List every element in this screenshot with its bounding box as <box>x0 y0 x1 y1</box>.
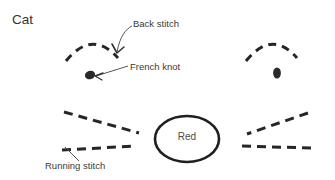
annotation-label-running-stitch: Running stitch <box>45 160 105 171</box>
back-stitch-leader-line <box>117 26 132 52</box>
left-whisker-lower-dashed <box>62 146 136 150</box>
right-french-knot-dot <box>273 67 281 78</box>
callout-label-red: Red <box>155 131 219 142</box>
right-whisker-lower-dashed <box>240 146 311 148</box>
left-whisker-upper-dashed <box>64 112 139 133</box>
figure-canvas: Cat Back stitch French knot Running stit… <box>0 0 335 180</box>
figure-title: Cat <box>12 12 33 27</box>
annotation-label-french-knot: French knot <box>130 61 180 72</box>
running-stitch-leader-line <box>65 147 79 161</box>
left-french-knot-dot <box>84 69 96 80</box>
annotation-label-back-stitch: Back stitch <box>133 18 179 29</box>
left-ear-arc-dashed <box>66 44 118 61</box>
right-ear-arc-dashed <box>246 44 297 61</box>
right-whisker-upper-dashed <box>247 113 308 134</box>
french-knot-arrowhead-icon <box>95 73 103 80</box>
